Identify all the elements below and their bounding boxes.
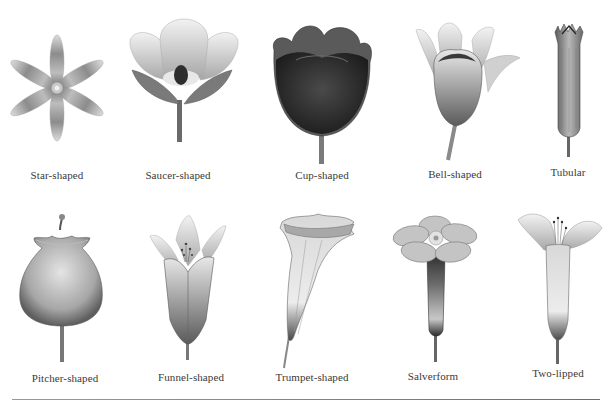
bell-shaped-flower-icon (410, 0, 530, 170)
funnel-shaped-flower-icon (140, 200, 260, 370)
pitcher-shaped-flower-icon (0, 200, 130, 370)
flower-card-tubular: Tubular (540, 0, 609, 195)
label-funnel-shaped: Funnel-shaped (158, 371, 224, 383)
label-cup-shaped: Cup-shaped (295, 169, 349, 181)
label-bell-shaped: Bell-shaped (428, 168, 482, 180)
label-tubular: Tubular (550, 166, 585, 178)
flower-card-trumpet: Trumpet-shaped (270, 200, 370, 395)
label-salverform: Salverform (408, 370, 458, 382)
flower-card-funnel: Funnel-shaped (140, 200, 260, 395)
trumpet-shaped-flower-icon (270, 200, 370, 370)
flower-card-star: Star-shaped (0, 0, 120, 195)
tubular-flower-icon (540, 0, 609, 170)
label-trumpet-shaped: Trumpet-shaped (275, 371, 348, 383)
label-saucer-shaped: Saucer-shaped (145, 169, 210, 181)
flower-card-salverform: Salverform (385, 200, 495, 395)
label-star-shaped: Star-shaped (31, 169, 84, 181)
saucer-shaped-flower-icon (120, 0, 250, 160)
flower-card-saucer: Saucer-shaped (120, 0, 250, 195)
label-two-lipped: Two-lipped (532, 367, 584, 379)
flower-card-bell: Bell-shaped (410, 0, 530, 195)
flower-card-two-lipped: Two-lipped (510, 200, 609, 395)
salverform-flower-icon (385, 200, 495, 370)
label-pitcher-shaped: Pitcher-shaped (32, 372, 99, 384)
flower-card-cup: Cup-shaped (262, 0, 382, 195)
star-shaped-flower-icon (0, 0, 120, 160)
two-lipped-flower-icon (510, 200, 609, 370)
flower-card-pitcher: Pitcher-shaped (0, 200, 130, 395)
cup-shaped-flower-icon (262, 0, 382, 170)
bottom-divider (12, 399, 600, 400)
